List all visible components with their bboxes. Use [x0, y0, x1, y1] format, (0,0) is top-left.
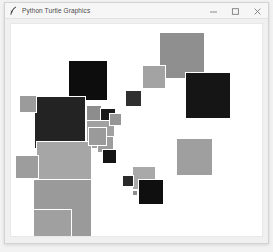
canvas-container [5, 19, 268, 243]
drawn-square [19, 95, 37, 113]
desktop-background: Python Turtle Graphics [0, 0, 273, 252]
drawn-square [185, 72, 232, 119]
drawn-square [142, 65, 166, 89]
turtle-graphics-window: Python Turtle Graphics [4, 2, 269, 244]
python-feather-icon [9, 6, 19, 16]
maximize-button[interactable] [224, 4, 246, 19]
turtle-canvas[interactable] [10, 23, 263, 237]
window-controls [202, 3, 268, 19]
drawn-square [132, 190, 138, 196]
drawn-square [138, 179, 164, 205]
drawn-square [122, 175, 134, 187]
drawn-square [15, 155, 39, 179]
drawn-square [33, 209, 73, 237]
drawn-square [102, 149, 117, 164]
drawn-square [176, 138, 214, 176]
window-title: Python Turtle Graphics [22, 3, 90, 19]
drawn-square [109, 113, 122, 126]
drawn-square [68, 60, 109, 101]
drawn-square [88, 127, 107, 146]
window-titlebar[interactable]: Python Turtle Graphics [5, 3, 268, 19]
close-button[interactable] [246, 4, 268, 19]
drawn-square [125, 90, 142, 107]
minimize-button[interactable] [202, 4, 224, 19]
